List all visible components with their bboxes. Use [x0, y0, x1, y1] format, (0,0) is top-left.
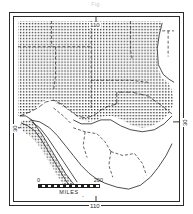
- graticule-label-top: 110: [89, 22, 101, 28]
- scale-end-labels: 0 200: [38, 177, 100, 184]
- scale-max-label: 200: [94, 177, 103, 183]
- graticule-label-left: 30: [12, 124, 18, 133]
- graticule-label-bottom: 110: [89, 203, 101, 209]
- map-figure: 0 200 MILES 110 110 30 30: [9, 12, 184, 206]
- scale-bar: 0 200 MILES: [38, 177, 100, 196]
- scale-units-label: MILES: [38, 188, 100, 196]
- map-canvas: [14, 17, 179, 201]
- map-inner-frame: 0 200 MILES: [13, 16, 180, 202]
- map-drawing: [14, 17, 179, 201]
- scale-rule: [38, 184, 100, 188]
- figure-caption-fragment: Fig.: [0, 0, 193, 8]
- scale-min-label: 0: [37, 177, 40, 183]
- graticule-label-right: 30: [182, 118, 188, 127]
